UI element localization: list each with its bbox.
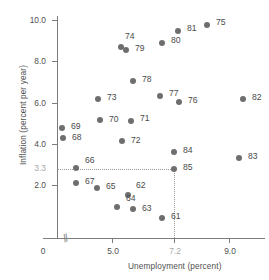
data-point-label-62: 62: [136, 180, 146, 190]
x-tick-label-9: 9.0: [215, 246, 245, 256]
scatter-chart: // 10.0 8.0 6.0 4.0 3.3 2.0 0 5.0 7.2 9.…: [0, 0, 269, 280]
data-point-label-69: 69: [71, 121, 81, 131]
x-tick-5: [112, 238, 113, 243]
data-point-label-63: 63: [142, 203, 152, 213]
x-tick-label-0: 0: [28, 246, 58, 256]
data-point-84: [171, 149, 177, 155]
data-point-63: [130, 206, 136, 212]
data-point-71: [128, 118, 134, 124]
x-tick-72: [174, 238, 175, 243]
y-tick-4: [52, 144, 57, 145]
data-point-85: [171, 166, 177, 172]
data-point-70: [97, 117, 103, 123]
data-point-label-79: 79: [135, 43, 145, 53]
data-point-label-74: 74: [125, 31, 135, 41]
data-point-label-66: 66: [85, 155, 95, 165]
x-tick-label-highlight-72: 7.2: [160, 246, 190, 256]
x-axis-line: [43, 238, 265, 239]
y-axis-line: [57, 16, 58, 238]
data-point-83: [236, 155, 242, 161]
y-tick-label-10: 10.0: [14, 15, 46, 25]
data-point-75: [204, 22, 210, 28]
data-point-label-82: 82: [252, 92, 262, 102]
x-tick-9: [229, 238, 230, 243]
y-tick-2: [52, 185, 57, 186]
data-point-label-78: 78: [142, 74, 152, 84]
data-point-label-68: 68: [72, 132, 82, 142]
data-point-label-73: 73: [107, 92, 117, 102]
data-point-label-83: 83: [248, 151, 258, 161]
data-point-61: [159, 215, 165, 221]
data-point-79: [123, 47, 129, 53]
guide-line-vertical-72: [174, 169, 175, 238]
data-point-label-71: 71: [140, 113, 150, 123]
data-point-69: [59, 125, 65, 131]
data-point-label-76: 76: [188, 95, 198, 105]
data-point-label-61: 61: [171, 211, 181, 221]
x-tick-label-5: 5.0: [98, 246, 128, 256]
data-point-label-81: 81: [187, 23, 197, 33]
data-point-77: [157, 93, 163, 99]
data-point-64: [114, 204, 120, 210]
x-axis-title: Unemployment (percent): [128, 261, 268, 271]
data-point-82: [240, 96, 246, 102]
data-point-66: [73, 165, 79, 171]
y-axis-title: Inflation (percent per year): [18, 40, 28, 190]
data-point-label-65: 65: [106, 181, 116, 191]
data-point-67: [73, 180, 79, 186]
y-tick-8: [52, 61, 57, 62]
data-point-label-72: 72: [131, 135, 141, 145]
y-tick-6: [52, 103, 57, 104]
data-point-label-80: 80: [171, 35, 181, 45]
data-point-68: [60, 135, 66, 141]
data-point-81: [175, 28, 181, 34]
data-point-label-84: 84: [183, 145, 193, 155]
data-point-label-85: 85: [183, 162, 193, 172]
data-point-label-75: 75: [216, 17, 226, 27]
data-point-73: [95, 96, 101, 102]
data-point-78: [130, 78, 136, 84]
data-point-76: [176, 99, 182, 105]
data-point-label-67: 67: [85, 176, 95, 186]
data-point-80: [159, 40, 165, 46]
y-tick-10: [52, 20, 57, 21]
data-point-72: [119, 138, 125, 144]
data-point-label-64: 64: [126, 193, 136, 203]
data-point-label-77: 77: [169, 88, 179, 98]
data-point-label-70: 70: [109, 114, 119, 124]
